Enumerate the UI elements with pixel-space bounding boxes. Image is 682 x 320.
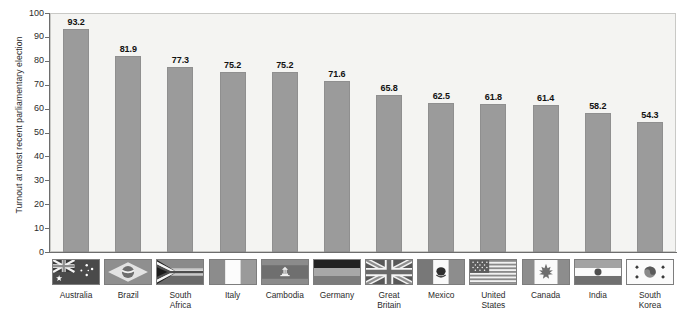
country-label: UnitedStates xyxy=(466,290,520,310)
country-label-line1: Italy xyxy=(206,290,260,300)
flag-great-britain-icon xyxy=(365,259,413,285)
flag-canada-icon xyxy=(522,259,570,285)
country-label-line1: South xyxy=(153,290,207,300)
country-flag-row xyxy=(0,0,682,320)
country-label: Cambodia xyxy=(258,290,312,300)
country-label-line2: Africa xyxy=(153,300,207,310)
flag-germany-icon xyxy=(313,259,361,285)
flag-india-icon xyxy=(574,259,622,285)
country-label: Italy xyxy=(206,290,260,300)
country-label: SouthKorea xyxy=(623,290,677,310)
country-label-line1: Mexico xyxy=(414,290,468,300)
country-label: SouthAfrica xyxy=(153,290,207,310)
country-label-line1: Canada xyxy=(519,290,573,300)
country-label-line1: India xyxy=(571,290,625,300)
country-label-line1: Germany xyxy=(310,290,364,300)
country-label-line2: Korea xyxy=(623,300,677,310)
flag-brazil-icon xyxy=(104,259,152,285)
country-label: Mexico xyxy=(414,290,468,300)
country-label-line1: South xyxy=(623,290,677,300)
flag-italy-icon xyxy=(209,259,257,285)
flag-australia-icon xyxy=(52,259,100,285)
country-label-line2: States xyxy=(466,300,520,310)
flag-south-africa-icon xyxy=(156,259,204,285)
country-label: Brazil xyxy=(101,290,155,300)
flag-united-states-icon xyxy=(469,259,517,285)
country-label: Germany xyxy=(310,290,364,300)
country-label: Canada xyxy=(519,290,573,300)
country-label-line1: Brazil xyxy=(101,290,155,300)
country-label-line1: Great xyxy=(362,290,416,300)
flag-cambodia-icon xyxy=(261,259,309,285)
flag-south-korea-icon xyxy=(626,259,674,285)
country-label-line1: United xyxy=(466,290,520,300)
country-label-line1: Australia xyxy=(49,290,103,300)
country-label: GreatBritain xyxy=(362,290,416,310)
flag-mexico-icon xyxy=(417,259,465,285)
country-label: India xyxy=(571,290,625,300)
country-label: Australia xyxy=(49,290,103,300)
bar-chart: Turnout at most recent parliamentary ele… xyxy=(0,0,682,320)
country-label-line2: Britain xyxy=(362,300,416,310)
country-label-line1: Cambodia xyxy=(258,290,312,300)
